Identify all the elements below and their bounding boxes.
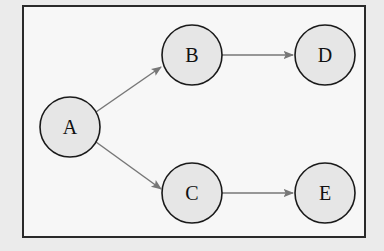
node-e-label: E bbox=[319, 182, 331, 204]
edge-a-to-c bbox=[96, 142, 161, 189]
graph-svg: A B C D E bbox=[0, 0, 384, 251]
node-a[interactable]: A bbox=[40, 97, 100, 157]
node-c-label: C bbox=[185, 182, 198, 204]
node-a-label: A bbox=[63, 116, 78, 138]
diagram-canvas: A B C D E bbox=[0, 0, 384, 251]
node-e[interactable]: E bbox=[295, 163, 355, 223]
node-d-label: D bbox=[318, 44, 332, 66]
node-b-label: B bbox=[185, 44, 198, 66]
node-b[interactable]: B bbox=[162, 25, 222, 85]
edge-a-to-b bbox=[96, 67, 161, 112]
node-c[interactable]: C bbox=[162, 163, 222, 223]
node-d[interactable]: D bbox=[295, 25, 355, 85]
